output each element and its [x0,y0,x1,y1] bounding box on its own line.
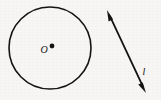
line-segment-shape [110,16,143,87]
circle-center-label: O [40,44,47,55]
arrowhead-up-left-icon [107,10,113,21]
figure-canvas: O l [0,0,161,100]
circle-center-point [50,44,55,49]
circle-shape [9,7,91,89]
arrowhead-down-right-icon [138,82,146,93]
geometry-figure: O l [0,0,161,100]
line-segment-label: l [143,66,146,77]
